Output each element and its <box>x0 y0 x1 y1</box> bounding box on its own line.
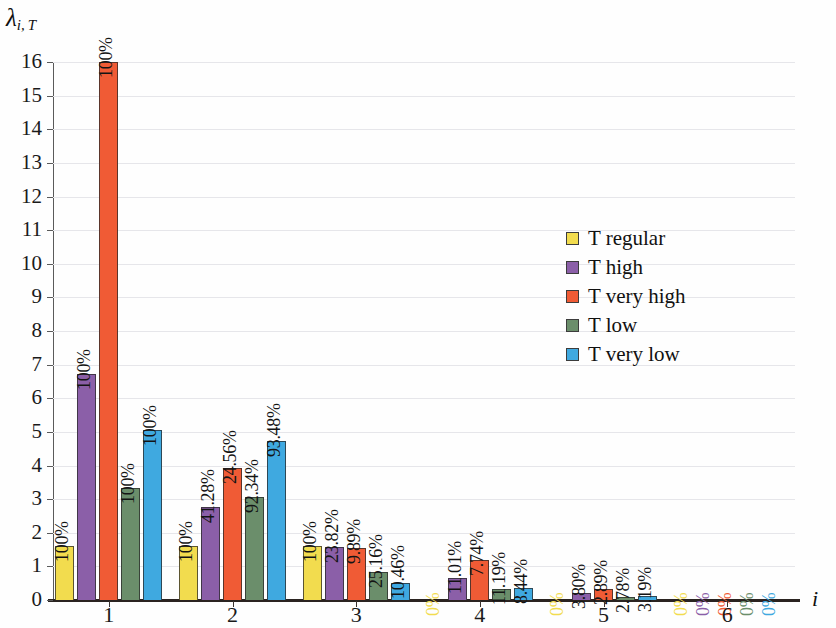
x-tick-label: 1 <box>89 602 129 628</box>
gridline <box>53 499 795 500</box>
legend-item[interactable]: T very low <box>566 340 746 369</box>
x-tick-label: 5 <box>584 602 624 628</box>
x-tick-label: 3 <box>336 602 376 628</box>
y-tick-label: 16 <box>0 51 42 72</box>
y-tick-label: 10 <box>0 253 42 274</box>
legend-item[interactable]: T high <box>566 253 746 282</box>
bar-value-label: 0% <box>671 593 692 616</box>
bar-value-label: 0% <box>547 593 568 616</box>
legend: T regularT highT very highT lowT very lo… <box>566 224 746 369</box>
bar-value-label: 100% <box>52 521 73 562</box>
x-axis-title: i <box>812 586 818 612</box>
gridline <box>53 197 795 198</box>
y-tick-label: 1 <box>0 555 42 576</box>
bar-value-label: 9.89% <box>344 519 365 564</box>
y-tick-label: 3 <box>0 488 42 509</box>
x-tick-label: 2 <box>213 602 253 628</box>
bar-value-label: 11.01% <box>445 541 466 594</box>
gridline <box>53 533 795 534</box>
bar-value-label: 100% <box>300 521 321 562</box>
bar-value-label: 93.48% <box>264 403 285 457</box>
legend-swatch-icon <box>566 319 579 332</box>
bar-value-label: 0% <box>423 593 444 616</box>
y-tick-label: 8 <box>0 320 42 341</box>
gridline <box>53 466 795 467</box>
bar <box>143 430 162 600</box>
legend-swatch-icon <box>566 290 579 303</box>
bar <box>77 374 96 600</box>
x-tick-label: 4 <box>460 602 500 628</box>
bar-value-label: 23.82% <box>322 509 343 563</box>
bar-value-label: 100% <box>140 405 161 446</box>
y-axis-title-subscript: i, T <box>17 17 36 33</box>
bar <box>99 62 118 600</box>
y-tick-label: 11 <box>0 219 42 240</box>
bar-value-label: 41.28% <box>198 469 219 523</box>
y-tick-label: 2 <box>0 522 42 543</box>
bar-value-label: 0% <box>759 593 780 616</box>
gridline <box>53 129 795 130</box>
bar-value-label: 3.19% <box>635 567 656 612</box>
legend-label: T very high <box>588 286 686 307</box>
gridline <box>53 432 795 433</box>
y-tick-mark <box>47 600 53 601</box>
legend-label: T low <box>588 315 637 336</box>
x-tick-label: 6 <box>707 602 747 628</box>
gridline <box>53 398 795 399</box>
legend-item[interactable]: T very high <box>566 282 746 311</box>
y-tick-label: 5 <box>0 421 42 442</box>
bar-value-label: 7.74% <box>467 531 488 576</box>
bar-value-label: 100% <box>118 463 139 504</box>
y-tick-label: 4 <box>0 455 42 476</box>
y-axis-title-symbol: λ <box>6 4 17 31</box>
bar <box>121 488 140 600</box>
y-tick-label: 7 <box>0 354 42 375</box>
gridline <box>53 566 795 567</box>
legend-label: T regular <box>588 228 665 249</box>
bar-value-label: 100% <box>176 521 197 562</box>
y-tick-label: 0 <box>0 589 42 610</box>
bar-value-label: 8.44% <box>511 559 532 604</box>
y-tick-label: 13 <box>0 152 42 173</box>
legend-label: T high <box>588 257 643 278</box>
bar-value-label: 25.16% <box>366 534 387 588</box>
bar-value-label: 92.34% <box>242 460 263 514</box>
bar-value-label: 10.46% <box>388 545 409 599</box>
bar-chart: λi, T i 012345678910111213141516 100%100… <box>0 0 836 628</box>
gridline <box>53 163 795 164</box>
bar-value-label: 100% <box>96 37 117 78</box>
gridline <box>53 96 795 97</box>
bar-value-label: 100% <box>74 349 95 390</box>
legend-swatch-icon <box>566 232 579 245</box>
legend-item[interactable]: T regular <box>566 224 746 253</box>
y-tick-label: 9 <box>0 286 42 307</box>
y-axis-title: λi, T <box>6 4 36 34</box>
bar <box>267 441 286 600</box>
bar-value-label: 24.56% <box>220 430 241 484</box>
legend-item[interactable]: T low <box>566 311 746 340</box>
y-tick-label: 14 <box>0 118 42 139</box>
legend-swatch-icon <box>566 261 579 274</box>
y-tick-label: 6 <box>0 387 42 408</box>
gridline <box>53 62 795 63</box>
legend-swatch-icon <box>566 348 579 361</box>
legend-label: T very low <box>588 344 680 365</box>
y-tick-label: 12 <box>0 186 42 207</box>
bar-value-label: 2.89% <box>591 560 612 605</box>
y-tick-label: 15 <box>0 85 42 106</box>
bar <box>223 468 242 600</box>
bar-value-label: 11.19% <box>489 552 510 605</box>
